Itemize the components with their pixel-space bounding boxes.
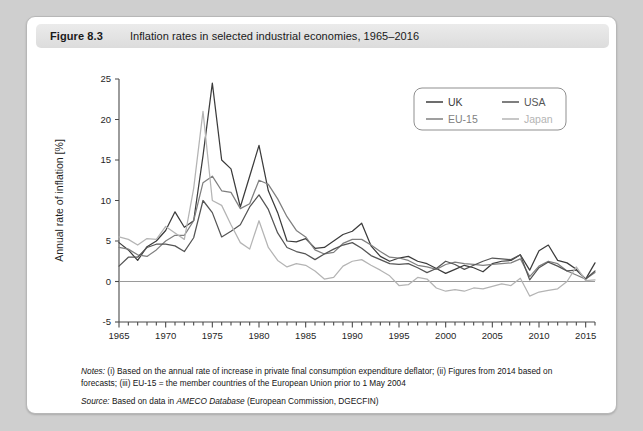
y-tick-label: 0 <box>106 276 111 287</box>
chart-region: 1965197019751980198519901995200020052010… <box>27 50 617 370</box>
legend-label-uk: UK <box>448 96 463 108</box>
x-tick-label: 1970 <box>155 330 176 341</box>
legend-label-usa: USA <box>524 96 546 108</box>
y-tick-label: 15 <box>100 154 111 165</box>
source-pre: Based on data in <box>110 396 177 406</box>
figure-number: Figure 8.3 <box>50 30 103 42</box>
source-label: Source: <box>81 396 110 406</box>
y-axis-tick-labels: -50510152025 <box>100 73 111 327</box>
figure-title-bar: Figure 8.3 Inflation rates in selected i… <box>36 24 609 48</box>
inflation-line-chart: 1965197019751980198519901995200020052010… <box>27 50 617 370</box>
x-tick-label: 1990 <box>342 330 363 341</box>
figure-notes: Notes: (i) Based on the annual rate of i… <box>27 366 617 408</box>
figure-title: Inflation rates in selected industrial e… <box>130 30 419 42</box>
x-tick-label: 1980 <box>248 330 269 341</box>
x-tick-label: 2015 <box>575 330 596 341</box>
figure-card: Figure 8.3 Inflation rates in selected i… <box>26 16 617 414</box>
x-tick-label: 1985 <box>295 330 316 341</box>
notes-line-2: forecasts; (iii) EU-15 = the member coun… <box>81 378 600 390</box>
y-tick-label: 5 <box>106 235 111 246</box>
legend-label-eu-15: EU-15 <box>448 113 478 125</box>
x-tick-label: 1995 <box>388 330 409 341</box>
notes-label: Notes: <box>81 366 105 376</box>
x-axis-tick-labels: 1965197019751980198519901995200020052010… <box>108 330 596 341</box>
notes-text-2: forecasts; (iii) EU-15 = the member coun… <box>81 378 406 388</box>
series-line-japan <box>119 111 595 296</box>
notes-text-1: (i) Based on the annual rate of increase… <box>105 366 552 376</box>
legend-label-japan: Japan <box>524 113 553 125</box>
notes-line-1: Notes: (i) Based on the annual rate of i… <box>81 366 600 378</box>
y-axis-title: Annual rate of inflation [%] <box>53 139 65 262</box>
y-tick-label: -5 <box>103 316 111 327</box>
x-tick-label: 2005 <box>482 330 503 341</box>
x-tick-label: 1965 <box>108 330 129 341</box>
y-tick-label: 20 <box>100 114 111 125</box>
source-line: Source: Based on data in AMECO Database … <box>81 396 600 408</box>
x-tick-label: 2010 <box>528 330 549 341</box>
y-axis-title-text: Annual rate of inflation [%] <box>53 139 65 262</box>
source-post: (European Commission, DGECFIN) <box>245 396 379 406</box>
chart-legend: UKUSAEU-15Japan <box>414 88 566 130</box>
source-database-name: AMECO Database <box>176 396 244 406</box>
x-tick-label: 1975 <box>202 330 223 341</box>
y-tick-label: 25 <box>100 73 111 84</box>
y-tick-label: 10 <box>100 195 111 206</box>
x-tick-label: 2000 <box>435 330 456 341</box>
page-background: Figure 8.3 Inflation rates in selected i… <box>0 0 643 431</box>
